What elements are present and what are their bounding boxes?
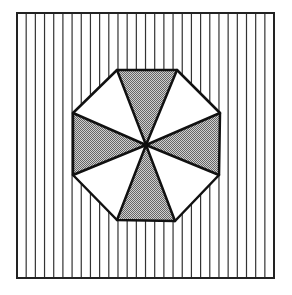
octagon-diagram bbox=[0, 0, 292, 295]
